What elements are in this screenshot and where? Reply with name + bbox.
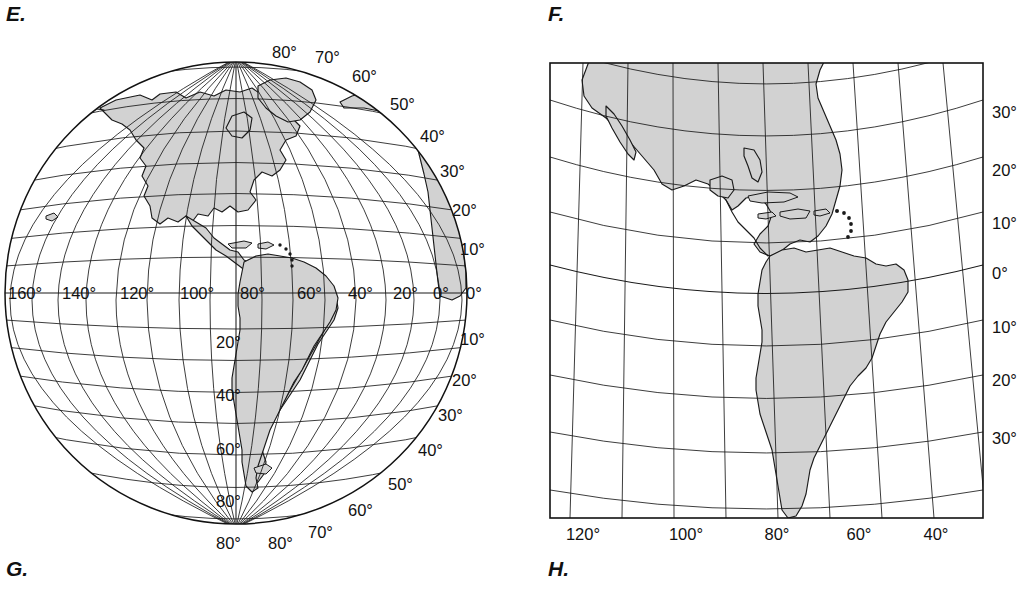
cuba-islet <box>228 241 252 248</box>
globe-cm-label-20: 20° <box>216 333 241 351</box>
globe-lon-label-80: 80° <box>240 284 265 302</box>
figure-e-globe: 80° 70° 60° 50° 40° 30° 20° 10° 0° 10° 2… <box>0 0 510 590</box>
globe-right-label-40s: 40° <box>418 441 443 459</box>
antilles-dot-1 <box>278 243 281 246</box>
globe-lon-label-0: 0° <box>433 284 449 302</box>
conic-x-label-80: 80° <box>765 525 790 543</box>
globe-right-label-60s: 60° <box>348 501 373 519</box>
conic-x-label-100: 100° <box>669 525 703 543</box>
globe-top-label-80: 80° <box>272 43 297 61</box>
globe-bottom-label-70: 70° <box>308 523 333 541</box>
conic-contents <box>518 0 986 518</box>
globe-right-label-10n: 10° <box>460 240 485 258</box>
conic-x-label-40: 40° <box>924 525 949 543</box>
globe-cm-label-60: 60° <box>216 440 241 458</box>
globe-right-label-10s: 10° <box>460 330 485 348</box>
globe-lon-label-20: 20° <box>393 284 418 302</box>
globe-cm-label-40: 40° <box>216 386 241 404</box>
antilles-dot-3 <box>288 252 291 255</box>
conic-x-label-60: 60° <box>847 525 872 543</box>
globe-lon-label-160: 160° <box>8 284 42 302</box>
conic-y-label-0: 0° <box>992 264 1008 282</box>
globe-right-label-50s: 50° <box>388 475 413 493</box>
globe-top-label-40: 40° <box>420 127 445 145</box>
antilles-dot-f-4 <box>849 222 853 226</box>
alaska-outline <box>60 108 104 120</box>
globe-bottom-label-80: 80° <box>268 534 293 552</box>
yucatan-shape <box>710 176 734 198</box>
antilles-dot-2 <box>284 247 287 250</box>
conic-svg: 120° 100° 80° 60° 40° 30° 20° 10° 0° 10°… <box>510 0 1020 590</box>
conic-y-label-30s: 30° <box>992 429 1017 447</box>
antilles-dot-f-1 <box>835 209 839 213</box>
globe-top-label-60: 60° <box>352 67 377 85</box>
globe-top-label-70: 70° <box>315 48 340 66</box>
conic-y-label-20n: 20° <box>992 161 1017 179</box>
antilles-dot-f-2 <box>842 211 846 215</box>
globe-bottom-cm-label-80: 80° <box>216 534 241 552</box>
globe-right-label-0: 0° <box>466 284 482 302</box>
conic-y-label-20s: 20° <box>992 371 1017 389</box>
conic-y-label-10s: 10° <box>992 318 1017 336</box>
globe-lon-label-100: 100° <box>180 284 214 302</box>
globe-lon-label-140: 140° <box>62 284 96 302</box>
globe-right-label-30s: 30° <box>438 406 463 424</box>
globe-lon-label-60: 60° <box>297 284 322 302</box>
globe-svg: 80° 70° 60° 50° 40° 30° 20° 10° 0° 10° 2… <box>0 0 510 590</box>
globe-right-label-20s: 20° <box>452 371 477 389</box>
conic-y-label-30n: 30° <box>992 103 1017 121</box>
hawaii-islet <box>46 213 58 221</box>
antilles-dot-f-3 <box>847 216 851 220</box>
globe-lon-label-40: 40° <box>348 284 373 302</box>
figure-f-conic-map: 120° 100° 80° 60° 40° 30° 20° 10° 0° 10°… <box>510 0 1020 590</box>
south-america-shape-f <box>756 248 908 518</box>
antilles-dot-f-5 <box>849 229 853 233</box>
globe-cm-label-80: 80° <box>216 492 241 510</box>
globe-right-label-30: 30° <box>440 162 465 180</box>
globe-top-label-50: 50° <box>390 95 415 113</box>
globe-lon-label-120: 120° <box>120 284 154 302</box>
conic-y-label-10n: 10° <box>992 214 1017 232</box>
globe-right-label-20: 20° <box>452 201 477 219</box>
conic-x-label-120: 120° <box>566 525 600 543</box>
